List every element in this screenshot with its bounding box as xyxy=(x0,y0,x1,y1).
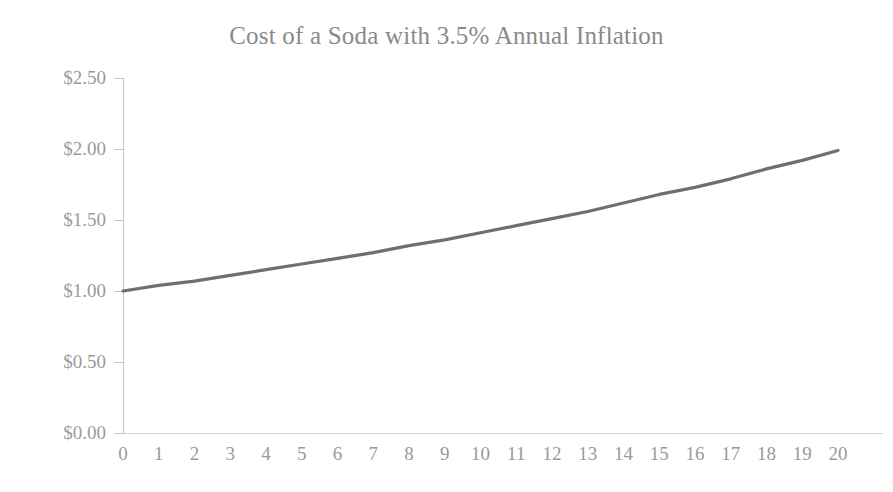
chart-page: Cost of a Soda with 3.5% Annual Inflatio… xyxy=(0,0,893,492)
line-series-plot xyxy=(0,0,893,492)
series-line-cost-of-soda xyxy=(123,150,838,291)
